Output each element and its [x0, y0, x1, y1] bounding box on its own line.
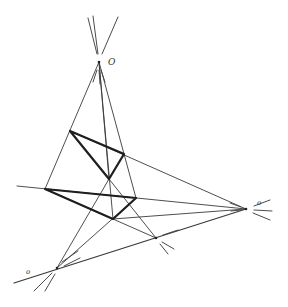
- triangle-upper: [70, 131, 124, 179]
- point-R: [56, 267, 59, 270]
- triangle-upper-edges: [70, 131, 124, 179]
- line-C2-P: [113, 209, 246, 219]
- points: [56, 61, 248, 270]
- line-C1-Q: [109, 179, 156, 238]
- labels: O o o: [26, 57, 261, 276]
- construction-lines: [14, 62, 246, 283]
- point-P: [245, 208, 248, 211]
- point-Q: [155, 237, 158, 240]
- triangle-lower-edges: [45, 189, 136, 219]
- desargues-diagram: O o o: [0, 0, 288, 307]
- tick-marks: [34, 16, 272, 291]
- triangle-lower: [45, 189, 136, 219]
- label-O: O: [108, 57, 116, 67]
- label-P: o: [257, 199, 261, 207]
- axis-line: [14, 209, 246, 283]
- ray-O-A: [45, 62, 99, 189]
- point-O: [98, 61, 101, 64]
- label-R: o: [26, 268, 30, 276]
